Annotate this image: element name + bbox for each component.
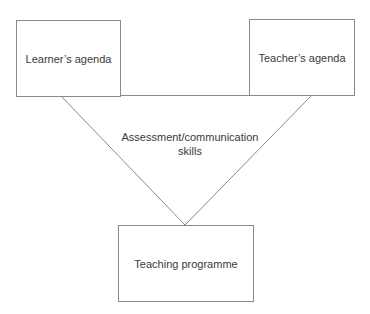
teaching-programme-label: Teaching programme [134,258,237,270]
teachers-agenda-label: Teacher’s agenda [258,52,345,64]
assessment-communication-label: Assessment/communication skills [110,130,270,158]
teachers-agenda-box: Teacher’s agenda [249,19,355,96]
edge-learner-programme [61,96,185,225]
learners-agenda-label: Learner’s agenda [26,53,112,65]
center-label-line2: skills [110,144,270,158]
learners-agenda-box: Learner’s agenda [16,20,121,97]
edge-teacher-programme [185,95,312,225]
teaching-programme-box: Teaching programme [118,225,254,302]
center-label-line1: Assessment/communication [110,130,270,144]
